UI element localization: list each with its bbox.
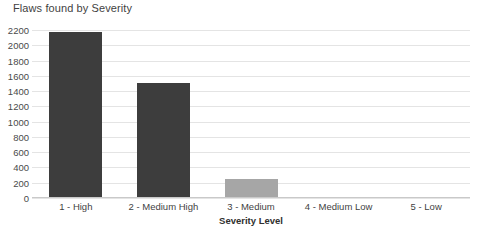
y-axis-tick-label: 1400 [0, 86, 29, 97]
y-axis-tick-label: 2200 [0, 25, 29, 36]
x-axis-title: Severity Level [32, 215, 470, 226]
y-axis-tick-label: 1200 [0, 101, 29, 112]
bar [225, 179, 278, 198]
y-axis-tick-label: 0 [0, 193, 29, 204]
bar [49, 32, 102, 198]
chart-title: Flaws found by Severity [13, 2, 132, 14]
gridline [32, 30, 470, 31]
x-axis-line [32, 197, 470, 198]
y-axis-tick-label: 1800 [0, 55, 29, 66]
bar [137, 83, 190, 198]
y-axis-tick-label: 600 [0, 147, 29, 158]
y-axis-tick-label: 800 [0, 131, 29, 142]
plot-area [32, 30, 470, 198]
y-axis-tick-label: 2000 [0, 40, 29, 51]
y-axis-tick-label: 400 [0, 162, 29, 173]
y-axis-tick-labels: 2200200018001600140012001000800600400200… [0, 30, 29, 198]
gridline [32, 198, 470, 199]
y-axis-tick-label: 200 [0, 177, 29, 188]
y-axis-tick-label: 1600 [0, 70, 29, 81]
bar-chart: Flaws found by Severity 2200200018001600… [0, 0, 477, 233]
y-axis-tick-label: 1000 [0, 116, 29, 127]
